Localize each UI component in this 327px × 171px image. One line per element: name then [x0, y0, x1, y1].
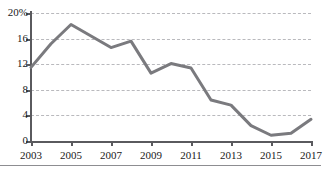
gridline-4 [31, 115, 311, 116]
x-tick-2007 [111, 141, 113, 146]
x-axis-label-2017: 2017 [291, 149, 327, 161]
y-axis-label-0: 0 [23, 135, 29, 146]
x-tick-2013 [231, 141, 233, 146]
x-tick-2017 [311, 141, 313, 146]
y-axis-label-8: 8 [23, 84, 29, 95]
x-tick-2015 [271, 141, 273, 146]
y-axis-label-12: 12 [17, 58, 28, 69]
y-axis-label-4: 4 [23, 109, 29, 120]
y-axis-label-20: 20% [8, 7, 28, 18]
gridline-8 [31, 90, 311, 91]
y-axis [30, 11, 32, 143]
x-axis-label-2005: 2005 [51, 149, 91, 161]
plot-area [31, 13, 311, 141]
x-axis-label-2007: 2007 [91, 149, 131, 161]
x-tick-2005 [71, 141, 73, 146]
x-tick-2011 [191, 141, 193, 146]
gridline-20 [31, 13, 311, 14]
x-axis-label-2003: 2003 [11, 149, 51, 161]
x-axis-label-2015: 2015 [251, 149, 291, 161]
x-tick-2003 [31, 141, 33, 146]
gridline-12 [31, 64, 311, 65]
footer-divider [0, 165, 321, 166]
x-tick-2009 [151, 141, 153, 146]
x-axis-label-2009: 2009 [131, 149, 171, 161]
gridline-16 [31, 39, 311, 40]
y-axis-label-16: 16 [17, 33, 28, 44]
x-axis-label-2013: 2013 [211, 149, 251, 161]
x-axis-label-2011: 2011 [171, 149, 211, 161]
